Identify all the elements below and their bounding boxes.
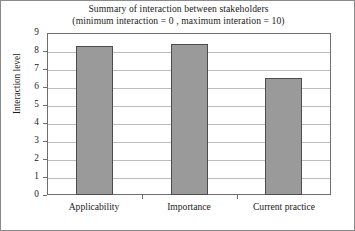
y-tick-label-4: 4 bbox=[34, 118, 39, 127]
y-tick-label-0: 0 bbox=[34, 190, 39, 199]
chart-title: Summary of interaction between stakehold… bbox=[1, 3, 355, 26]
y-tick-mark-0 bbox=[43, 195, 47, 196]
y-tick-label-2: 2 bbox=[34, 154, 39, 163]
x-label-importance: Importance bbox=[167, 201, 211, 213]
y-tick-label-7: 7 bbox=[34, 64, 39, 73]
x-label-current-practice: Current practice bbox=[253, 201, 315, 213]
y-tick-label-1: 1 bbox=[34, 172, 39, 181]
bars-layer bbox=[47, 33, 331, 195]
chart-screenshot: Summary of interaction between stakehold… bbox=[0, 0, 355, 231]
y-tick-label-8: 8 bbox=[34, 46, 39, 55]
x-label-applicability: Applicability bbox=[69, 201, 120, 213]
bar-importance[interactable] bbox=[171, 44, 208, 195]
chart-title-line2: (minimum interaction = 0 , maximum inter… bbox=[1, 15, 355, 27]
x-axis-tick-labels: Applicability Importance Current practic… bbox=[47, 201, 331, 219]
chart-title-line1: Summary of interaction between stakehold… bbox=[88, 3, 268, 14]
x-tick-mark-2 bbox=[237, 195, 238, 199]
y-tick-label-6: 6 bbox=[34, 82, 39, 91]
bar-current-practice[interactable] bbox=[265, 78, 302, 195]
bar-applicability[interactable] bbox=[76, 46, 113, 195]
y-tick-label-9: 9 bbox=[34, 28, 39, 37]
y-axis-tick-labels: 9 8 7 6 5 4 3 2 1 0 bbox=[1, 1, 47, 231]
y-tick-label-3: 3 bbox=[34, 136, 39, 145]
x-tick-mark-1 bbox=[142, 195, 143, 199]
y-tick-label-5: 5 bbox=[34, 100, 39, 109]
